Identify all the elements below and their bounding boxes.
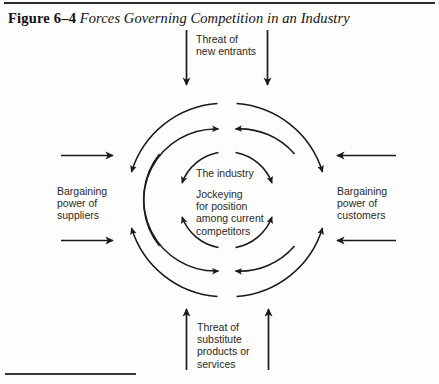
arc-outer-right-bottom	[237, 228, 323, 297]
label-bargaining-power-of-customers: Bargaining power of customers	[337, 185, 387, 222]
arc-outer-left-top	[132, 104, 218, 173]
label-threat-of-new-entrants: Threat of new entrants	[196, 33, 256, 57]
label-bargaining-power-of-suppliers: Bargaining power of suppliers	[57, 185, 107, 222]
label-the-industry: The industry	[196, 167, 254, 179]
arc-outer-left-bottom	[132, 228, 218, 297]
label-threat-of-substitutes: Threat of substitute products or service…	[197, 321, 250, 370]
arc-middle-right-up	[236, 129, 295, 154]
arc-middle-right-down	[236, 246, 295, 271]
label-jockeying-for-position: Jockeying for position among current com…	[196, 188, 264, 237]
figure-page: Figure 6–4 Forces Governing Competition …	[0, 0, 439, 384]
arc-outer-right-top	[237, 104, 323, 173]
bottom-footnote-rule	[5, 373, 136, 375]
